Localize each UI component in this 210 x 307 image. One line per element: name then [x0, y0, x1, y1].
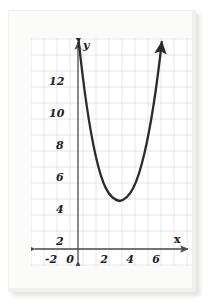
- y-tick-10: 10: [49, 108, 63, 119]
- plot-area: 12 10 8 6 4 2 -2 0 2 4 6 y x: [31, 38, 192, 266]
- x-tick-4: 4: [125, 254, 135, 265]
- graph-card: 12 10 8 6 4 2 -2 0 2 4 6 y x: [9, 11, 192, 288]
- y-tick-12: 12: [49, 76, 63, 87]
- x-tick-minus-2: -2: [43, 254, 59, 265]
- parabola-curve: [79, 42, 162, 201]
- y-tick-6: 6: [56, 172, 63, 183]
- x-axis-label: x: [174, 234, 181, 245]
- page-root: 12 10 8 6 4 2 -2 0 2 4 6 y x: [0, 0, 210, 307]
- x-tick-origin: 0: [65, 254, 75, 265]
- grid-lines: [31, 38, 192, 266]
- y-axis-label: y: [83, 40, 89, 51]
- y-tick-2: 2: [56, 236, 63, 247]
- coordinate-graph: [31, 38, 192, 266]
- y-tick-8: 8: [56, 140, 63, 151]
- x-tick-2: 2: [99, 254, 109, 265]
- x-tick-6: 6: [151, 254, 161, 265]
- y-tick-4: 4: [56, 204, 63, 215]
